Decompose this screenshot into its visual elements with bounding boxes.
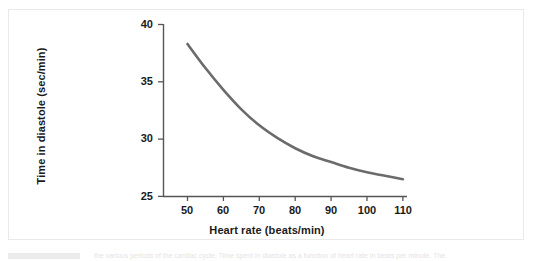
- x-tick-label-110: 110: [386, 204, 420, 216]
- y-tick-label-25: 25: [121, 190, 153, 202]
- caption-text: the various periods of the cardiac cycle…: [94, 252, 537, 260]
- x-axis-title: Heart rate (beats/min): [9, 224, 525, 236]
- chart-plot-area: 40 35 30 25 50 60 70 80 90 100 110 Heart…: [9, 10, 525, 241]
- x-tick-label-100: 100: [350, 204, 384, 216]
- y-tick-label-40: 40: [121, 18, 153, 30]
- caption-strip: the various periods of the cardiac cycle…: [8, 252, 537, 261]
- caption-chip: [8, 253, 80, 259]
- x-tick-label-70: 70: [242, 204, 276, 216]
- x-tick-label-50: 50: [170, 204, 204, 216]
- figure-frame: 40 35 30 25 50 60 70 80 90 100 110 Heart…: [8, 9, 524, 240]
- y-axis-title: Time in diastole (sec/min): [35, 26, 47, 206]
- data-series-line: [188, 44, 403, 179]
- x-tick-label-90: 90: [314, 204, 348, 216]
- figure-page: 40 35 30 25 50 60 70 80 90 100 110 Heart…: [0, 0, 537, 261]
- x-tick-label-80: 80: [278, 204, 312, 216]
- x-tick-label-60: 60: [206, 204, 240, 216]
- y-tick-label-30: 30: [121, 132, 153, 144]
- y-tick-label-35: 35: [121, 75, 153, 87]
